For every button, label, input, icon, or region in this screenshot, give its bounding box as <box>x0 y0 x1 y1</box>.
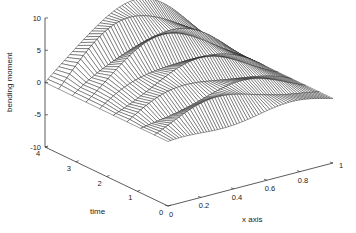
time-tick-label: 2 <box>97 179 101 188</box>
x-tick <box>330 162 333 163</box>
x-tick-label: 0 <box>169 210 173 219</box>
z-tick-label: 5 <box>37 46 41 55</box>
time-tick <box>107 176 110 177</box>
x-tick <box>231 188 234 189</box>
time-tick <box>168 205 171 206</box>
z-tick-label: -5 <box>34 110 41 119</box>
x-tick-label: 0.4 <box>232 193 242 202</box>
time-axis-label: time <box>90 207 106 216</box>
time-tick-label: 4 <box>36 149 40 158</box>
x-tick <box>198 196 201 197</box>
time-tick-label: 0 <box>159 208 163 217</box>
z-axis-label: bending moment <box>5 52 14 112</box>
x-tick <box>165 205 168 206</box>
time-tick-label: 3 <box>67 164 71 173</box>
z-tick-label: 10 <box>33 14 41 23</box>
x-tick-label: 0.6 <box>265 184 275 193</box>
surface-plot: -10-505100123400.20.40.60.81 bending mom… <box>0 0 356 233</box>
x-tick-label: 0.2 <box>199 201 209 210</box>
x-tick <box>297 171 300 172</box>
x-axis-line <box>168 163 333 206</box>
surface-mesh <box>45 0 333 142</box>
time-tick <box>76 161 79 162</box>
x-tick-label: 1 <box>339 161 343 170</box>
x-tick <box>264 179 267 180</box>
x-axis-label: x axis <box>242 215 262 224</box>
z-tick-label: 0 <box>37 78 41 87</box>
time-tick <box>137 190 140 191</box>
time-tick-label: 1 <box>128 193 132 202</box>
chart-figure: -10-505100123400.20.40.60.81 bending mom… <box>0 0 356 233</box>
x-tick-label: 0.8 <box>298 176 308 185</box>
